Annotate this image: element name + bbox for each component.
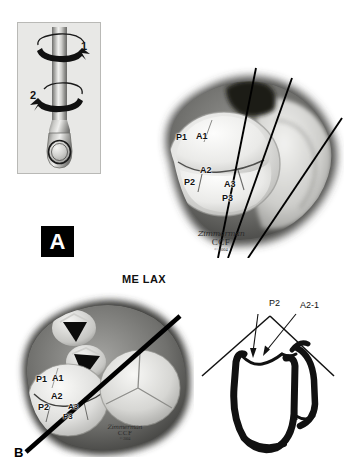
segment-label-b-p3: P3 (63, 413, 73, 421)
signature-institution: CCF (198, 238, 244, 247)
panel-c-sector-line-right (270, 316, 334, 376)
panel-tag-b: B (14, 446, 23, 459)
rotation-label-1: 1 (81, 41, 87, 52)
segment-label-b-a3: A3 (68, 403, 78, 411)
segment-label-a-p2: P2 (184, 178, 195, 187)
panel-c-label-p2: P2 (269, 299, 280, 308)
mitral-leaflets (242, 354, 282, 364)
rotation-label-2: 2 (30, 90, 36, 101)
panel-a-heart-illustration (140, 58, 344, 258)
signature-copyright: © 2004 (198, 248, 244, 253)
right-chamber-wall (297, 348, 315, 426)
signature-panel-b: Zimmerman CCF © 2004 (104, 424, 146, 442)
septum-line (294, 374, 296, 420)
rv-floor (296, 416, 314, 419)
segment-label-a-p3: P3 (222, 194, 233, 203)
segment-label-b-a1: A1 (52, 374, 64, 383)
signature-institution: CCF (104, 430, 146, 437)
panel-c-schematic-heart (196, 296, 344, 458)
lv-cavity-outline (234, 354, 295, 450)
panel-c-label-a2-1: A2-1 (300, 301, 319, 310)
figure-root: 1 2 A (0, 0, 344, 464)
segment-label-a-p1: P1 (176, 133, 187, 142)
segment-label-a-a3: A3 (224, 180, 236, 189)
segment-label-b-p2: P2 (38, 403, 49, 412)
panel-c-arrow-p2 (250, 314, 258, 358)
caption-me-lax: ME LAX (122, 273, 166, 285)
segment-label-a-a1: A1 (196, 132, 208, 141)
apex-wall (246, 440, 284, 447)
panel-tag-a: A (41, 226, 74, 257)
signature-panel-a: Zimmerman CCF © 2004 (198, 230, 244, 253)
segment-label-b-p1: P1 (36, 375, 47, 384)
segment-label-a-a2: A2 (200, 166, 212, 175)
segment-label-b-a2: A2 (51, 392, 63, 401)
signature-copyright: © 2004 (104, 438, 146, 442)
